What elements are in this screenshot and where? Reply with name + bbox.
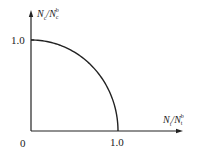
y-title-n1: N — [37, 8, 44, 19]
x-title-scripts: bt — [181, 114, 185, 126]
x-tick-label: 1.0 — [110, 136, 124, 148]
y-title-sub2: c — [56, 14, 59, 20]
origin-label: 0 — [20, 137, 26, 149]
x-title-sup2: b — [181, 113, 184, 119]
y-title-scripts: bc — [56, 8, 60, 20]
x-axis-title: Nt/Nbt — [163, 114, 185, 130]
y-title-sup2: b — [56, 7, 59, 13]
y-axis-title: Nc/Nbc — [37, 8, 60, 24]
x-title-n1: N — [163, 114, 170, 125]
y-title-n2: N — [49, 8, 56, 19]
y-axis-arrow-icon — [29, 10, 33, 17]
chart-canvas — [0, 0, 204, 158]
interaction-curve — [31, 40, 118, 131]
x-title-n2: N — [174, 114, 181, 125]
y-tick-label: 1.0 — [11, 34, 25, 46]
x-title-sub2: t — [181, 120, 183, 126]
